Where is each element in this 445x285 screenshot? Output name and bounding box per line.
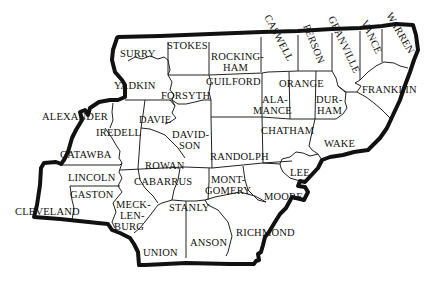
label-richmond: RICHMOND bbox=[236, 227, 295, 238]
label-durham-1: DUR- bbox=[316, 94, 343, 105]
label-davidson-2: SON bbox=[179, 140, 201, 151]
label-davidson-1: DAVID- bbox=[172, 129, 209, 140]
label-rowan: ROWAN bbox=[145, 160, 185, 171]
label-surry: SURRY bbox=[120, 48, 156, 59]
label-davie: DAVIE bbox=[139, 114, 171, 125]
label-alamance-1: ALA- bbox=[262, 94, 288, 105]
label-mecklenburg-2: LEN- bbox=[120, 210, 145, 221]
label-franklin: FRANKLIN bbox=[362, 84, 417, 95]
label-union: UNION bbox=[143, 247, 178, 258]
label-montgomery-2: GOMERY bbox=[205, 185, 251, 196]
label-chatham: CHATHAM bbox=[261, 125, 315, 136]
label-durham-2: HAM bbox=[317, 105, 343, 116]
label-cabarrus: CABARRUS bbox=[134, 176, 192, 187]
label-anson: ANSON bbox=[190, 237, 227, 248]
label-randolph: RANDOLPH bbox=[210, 151, 269, 162]
label-iredell: IREDELL bbox=[96, 127, 141, 138]
label-guilford: GUILFORD bbox=[206, 76, 261, 87]
label-alexander: ALEXANDER bbox=[42, 111, 108, 122]
label-cleveland: CLEVELAND bbox=[15, 206, 80, 217]
label-mecklenburg-3: BURG bbox=[114, 221, 144, 232]
label-moore: MOORE bbox=[264, 191, 303, 202]
label-stanly: STANLY bbox=[169, 202, 210, 213]
label-forsyth: FORSYTH bbox=[161, 90, 210, 101]
label-wake: WAKE bbox=[324, 138, 355, 149]
label-mecklenburg-1: MECK- bbox=[116, 199, 151, 210]
label-lee: LEE bbox=[290, 167, 310, 178]
label-stokes: STOKES bbox=[167, 40, 208, 51]
label-gaston: GASTON bbox=[70, 189, 114, 200]
county-map: SURRY STOKES ROCKING- HAM CASWELL PERSON… bbox=[0, 0, 445, 285]
label-montgomery-1: MONT- bbox=[211, 174, 246, 185]
label-alamance-2: MANCE bbox=[253, 105, 292, 116]
label-orange: ORANGE bbox=[279, 78, 324, 89]
label-catawba: CATAWBA bbox=[60, 149, 112, 160]
label-rockingham-2: HAM bbox=[223, 62, 249, 73]
label-lincoln: LINCOLN bbox=[68, 172, 116, 183]
label-rockingham-1: ROCKING- bbox=[211, 51, 264, 62]
label-yadkin: YADKIN bbox=[114, 80, 156, 91]
